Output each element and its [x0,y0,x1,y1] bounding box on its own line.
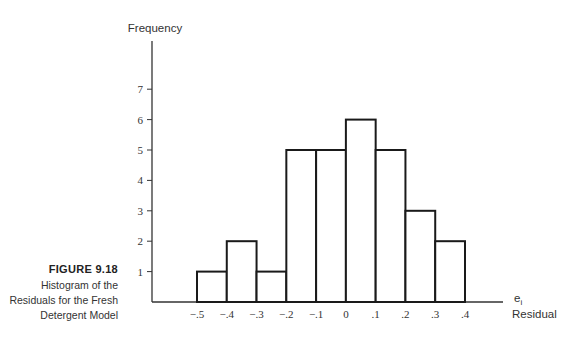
x-tick-label: .1 [372,308,380,320]
histogram-bar [286,150,316,302]
histogram-bars [197,120,465,302]
x-tick-label: −.5 [190,308,205,320]
x-axis: −.5−.4−.3−.2−.10.1.2.3.4 [152,302,503,320]
y-tick-label: 7 [138,83,144,95]
x-tick-label: .2 [401,308,409,320]
x-tick-label: −.4 [220,308,235,320]
y-tick-label: 2 [138,235,144,247]
y-axis: 1234567 [138,41,153,302]
histogram-bar [435,241,465,302]
x-tick-label: −.1 [309,308,323,320]
y-tick-label: 1 [138,266,144,278]
x-tick-label: −.2 [279,308,293,320]
x-tick-label: 0 [343,308,349,320]
y-axis-title: Frequency [128,22,183,34]
x-tick-label: .4 [461,308,470,320]
histogram-bar [316,150,346,302]
y-tick-label: 4 [138,174,144,186]
y-tick-label: 3 [138,205,144,217]
histogram-bar [376,150,406,302]
histogram-bar [197,272,227,302]
histogram-bar [227,241,257,302]
x-tick-label: .3 [431,308,440,320]
histogram-chart: Frequency 1234567 −.5−.4−.3−.2−.10.1.2.3… [0,0,581,341]
x-axis-symbol: ei [514,292,522,307]
histogram-bar [257,272,287,302]
x-axis-title: Residual [512,308,557,320]
histogram-bar [405,211,435,302]
y-tick-label: 6 [138,114,144,126]
histogram-bar [346,120,376,302]
x-tick-label: −.3 [249,308,264,320]
y-tick-label: 5 [138,144,144,156]
